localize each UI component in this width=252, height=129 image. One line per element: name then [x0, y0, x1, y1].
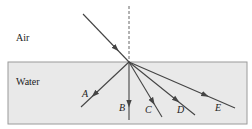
incident-ray-line: [83, 14, 129, 62]
incident-ray-arrow-icon: [115, 48, 116, 49]
incident-ray: [83, 14, 129, 62]
ray-a-arrow-icon: [94, 94, 95, 95]
ray-a-label: A: [81, 88, 89, 99]
ray-c-label: C: [145, 104, 152, 115]
ray-b-label: B: [119, 102, 125, 113]
water-label: Water: [16, 76, 40, 87]
water-region: [8, 62, 247, 124]
ray-c-arrow-icon: [152, 101, 153, 102]
ray-d-label: D: [176, 104, 185, 115]
ray-e-label: E: [214, 102, 221, 113]
air-label: Air: [16, 32, 30, 43]
refraction-diagram: ABCDE Air Water: [0, 0, 252, 129]
diagram-canvas: ABCDE Air Water: [0, 0, 252, 129]
